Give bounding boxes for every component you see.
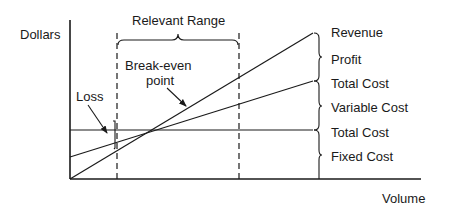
variable-cost-brace <box>314 81 322 130</box>
break-even-diagram: Dollars Volume Relevant Range Break-even… <box>0 0 450 215</box>
total-cost-bottom-label: Total Cost <box>331 125 389 140</box>
relevant-range-brace <box>118 34 238 45</box>
loss-bracket <box>113 121 115 149</box>
profit-brace <box>314 33 322 81</box>
break-even-arrow <box>167 88 186 106</box>
y-axis-label: Dollars <box>20 27 61 42</box>
total-cost-line <box>70 81 313 157</box>
x-axis-label: Volume <box>382 191 425 206</box>
revenue-line <box>70 33 313 179</box>
fixed-cost-label: Fixed Cost <box>331 149 394 164</box>
total-cost-top-label: Total Cost <box>331 76 389 91</box>
break-even-label-line2: point <box>146 73 175 88</box>
break-even-label-line1: Break-even <box>125 58 191 73</box>
relevant-range-label: Relevant Range <box>132 13 225 28</box>
fixed-cost-brace <box>314 130 322 179</box>
profit-label: Profit <box>331 52 362 67</box>
loss-arrow <box>88 105 107 133</box>
variable-cost-label: Variable Cost <box>331 100 408 115</box>
revenue-label: Revenue <box>331 25 383 40</box>
loss-label: Loss <box>76 89 104 104</box>
